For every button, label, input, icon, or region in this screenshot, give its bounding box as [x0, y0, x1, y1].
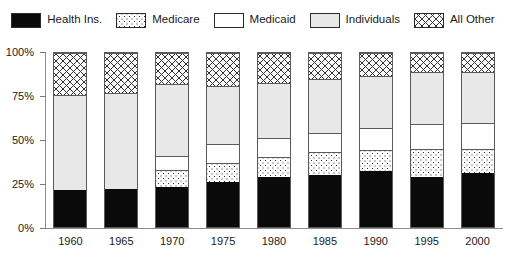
bar-segment — [360, 171, 392, 227]
bar-group — [53, 52, 87, 228]
bar-segment — [462, 149, 494, 173]
bar-segment — [411, 53, 443, 72]
x-tick-label: 1965 — [98, 236, 144, 247]
y-tick-mark — [40, 184, 46, 185]
bar-group — [461, 52, 495, 228]
stacked-bars — [45, 52, 503, 228]
bar-segment — [54, 53, 86, 95]
legend-swatch-medicaid-icon — [214, 13, 244, 28]
bar-segment — [207, 163, 239, 182]
bar-segment — [462, 72, 494, 122]
bar-segment — [105, 189, 137, 227]
legend-item-health-ins: Health Ins. — [11, 13, 102, 28]
bar-group — [359, 52, 393, 228]
bar-segment — [360, 53, 392, 76]
x-tick-label: 1995 — [404, 236, 450, 247]
bar-segment — [309, 152, 341, 175]
bar-segment — [207, 182, 239, 227]
bar-segment — [156, 187, 188, 227]
y-tick-mark — [40, 228, 46, 229]
bar-segment — [462, 123, 494, 149]
x-tick-label: 1990 — [353, 236, 399, 247]
legend-label-individuals: Individuals — [346, 14, 400, 26]
bar-group — [155, 52, 189, 228]
bar-segment — [258, 83, 290, 139]
legend-swatch-all-other-icon — [414, 13, 444, 28]
x-axis: 196019651970197519801985199019952000 — [45, 232, 503, 256]
bar-segment — [156, 84, 188, 155]
legend-swatch-individuals-icon — [310, 13, 340, 28]
bar-segment — [462, 173, 494, 227]
bar-group — [410, 52, 444, 228]
stacked-bar[interactable] — [104, 52, 138, 228]
legend-swatch-health-ins-icon — [11, 13, 41, 28]
bar-segment — [258, 157, 290, 176]
bar-segment — [156, 53, 188, 84]
bar-segment — [309, 133, 341, 152]
bar-segment — [105, 93, 137, 189]
stacked-bar[interactable] — [308, 52, 342, 228]
bar-segment — [360, 76, 392, 128]
bar-segment — [309, 175, 341, 227]
y-tick-mark — [40, 52, 46, 53]
y-tick-label: 25% — [12, 179, 34, 190]
bar-group — [104, 52, 138, 228]
chart-legend: Health Ins. Medicare Medicaid Individual… — [0, 0, 506, 40]
bar-segment — [156, 156, 188, 170]
x-axis-line — [45, 228, 503, 229]
bar-segment — [207, 144, 239, 163]
bar-segment — [54, 190, 86, 227]
bar-group — [308, 52, 342, 228]
bar-group — [257, 52, 291, 228]
bar-segment — [411, 177, 443, 227]
bar-segment — [207, 53, 239, 86]
legend-label-all-other: All Other — [450, 14, 495, 26]
x-tick-label: 1970 — [149, 236, 195, 247]
bar-segment — [309, 79, 341, 133]
bar-segment — [258, 138, 290, 157]
chart-plot-area: 0%25%50%75%100% 196019651970197519801985… — [0, 40, 506, 263]
y-tick-mark — [40, 140, 46, 141]
bar-segment — [258, 177, 290, 227]
x-tick-label: 1985 — [302, 236, 348, 247]
bar-segment — [54, 95, 86, 191]
x-tick-label: 1980 — [251, 236, 297, 247]
y-tick-mark — [40, 96, 46, 97]
y-tick-label: 50% — [12, 135, 34, 146]
stacked-bar[interactable] — [359, 52, 393, 228]
bar-segment — [156, 170, 188, 187]
bar-segment — [207, 86, 239, 143]
legend-item-medicaid: Medicaid — [214, 13, 296, 28]
y-axis: 0%25%50%75%100% — [0, 40, 40, 263]
y-tick-label: 0% — [18, 223, 34, 234]
bar-segment — [360, 128, 392, 151]
stacked-bar[interactable] — [410, 52, 444, 228]
y-tick-label: 75% — [12, 91, 34, 102]
legend-item-medicare: Medicare — [116, 13, 199, 28]
legend-swatch-medicare-icon — [116, 13, 146, 28]
x-tick-label: 2000 — [455, 236, 501, 247]
legend-label-health-ins: Health Ins. — [47, 14, 102, 26]
stacked-bar[interactable] — [257, 52, 291, 228]
y-tick-label: 100% — [6, 47, 34, 58]
bar-segment — [309, 53, 341, 79]
bar-segment — [411, 72, 443, 124]
bar-segment — [462, 53, 494, 72]
bar-segment — [258, 53, 290, 83]
bar-segment — [360, 150, 392, 171]
legend-label-medicaid: Medicaid — [250, 14, 296, 26]
legend-label-medicare: Medicare — [152, 14, 199, 26]
bar-segment — [411, 149, 443, 177]
bar-group — [206, 52, 240, 228]
stacked-bar[interactable] — [53, 52, 87, 228]
bar-segment — [411, 124, 443, 148]
legend-item-all-other: All Other — [414, 13, 495, 28]
legend-item-individuals: Individuals — [310, 13, 400, 28]
x-tick-label: 1975 — [200, 236, 246, 247]
stacked-bar[interactable] — [155, 52, 189, 228]
stacked-bar[interactable] — [461, 52, 495, 228]
stacked-bar[interactable] — [206, 52, 240, 228]
x-tick-label: 1960 — [47, 236, 93, 247]
bar-segment — [105, 53, 137, 93]
